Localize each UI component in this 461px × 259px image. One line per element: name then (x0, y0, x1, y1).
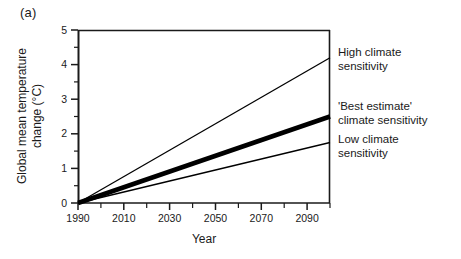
x-tick-label: 1990 (66, 212, 90, 224)
x-tick-label: 2030 (158, 212, 182, 224)
y-tick-label: 3 (61, 93, 67, 105)
y-axis-title-line1: Global mean temperature (15, 48, 29, 184)
x-tick-label: 2050 (204, 212, 228, 224)
series-line-low-climate-sensitivity (78, 143, 330, 204)
annotation-high-climate-sensitivity: High climate sensitivity (338, 46, 401, 73)
x-axis-title: Year (192, 232, 216, 246)
annotation-low-climate-sensitivity: Low climate sensitivity (338, 133, 399, 160)
x-tick-label: 2010 (112, 212, 136, 224)
y-tick-label: 2 (61, 127, 67, 139)
y-axis-title-line2: change (°C) (30, 84, 44, 148)
chart-plot-area: 0 1 2 3 4 5 1990 2010 (0, 0, 461, 259)
x-tick-label: 2070 (250, 212, 274, 224)
x-tick-label: 2090 (295, 212, 319, 224)
y-tick-label: 1 (61, 162, 67, 174)
series-line-best-estimate-climate-sensitivity (78, 117, 330, 204)
y-minor-ticks (74, 47, 78, 185)
y-tick-label: 4 (61, 58, 67, 70)
x-tick-labels: 1990 2010 2030 2050 2070 2090 (66, 212, 319, 224)
y-tick-label: 5 (61, 24, 67, 36)
y-tick-label: 0 (61, 197, 67, 209)
figure-panel-a: (a) 0 1 2 3 4 (0, 0, 461, 259)
annotation-best-estimate-climate-sensitivity: 'Best estimate' climate sensitivity (338, 100, 427, 127)
y-tick-labels: 0 1 2 3 4 5 (61, 24, 67, 209)
